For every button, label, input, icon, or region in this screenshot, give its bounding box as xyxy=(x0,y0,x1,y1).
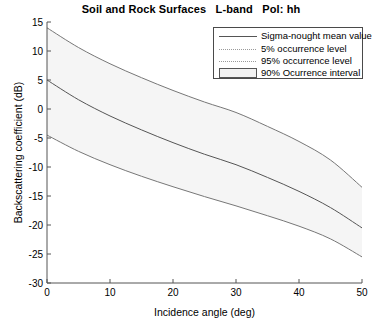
legend-line-solid-icon xyxy=(219,30,257,42)
legend-label-mean: Sigma-nought mean value xyxy=(261,30,372,41)
legend-patch-icon xyxy=(219,67,257,79)
chart-legend: Sigma-nought mean value 5% occurrence le… xyxy=(213,27,363,79)
legend-label-p95: 95% occurrence level xyxy=(261,55,352,66)
legend-label-interval: 90% Ocurrence interval xyxy=(261,67,360,78)
legend-label-p5: 5% occurrence level xyxy=(261,43,347,54)
legend-line-dotted-icon xyxy=(219,43,257,55)
legend-line-dotted-icon-2 xyxy=(219,55,257,67)
legend-item-interval: 90% Ocurrence interval xyxy=(214,66,362,79)
chart-figure: Soil and Rock Surfaces L-band Pol: hh Ba… xyxy=(0,0,382,328)
legend-item-mean: Sigma-nought mean value xyxy=(214,29,362,42)
